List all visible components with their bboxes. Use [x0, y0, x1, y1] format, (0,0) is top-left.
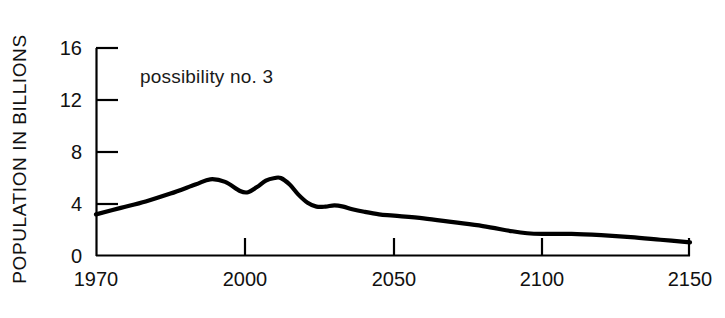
x-tick-label-2150: 2150	[668, 268, 713, 291]
y-tick-label-12: 12	[60, 89, 82, 112]
x-tick-label-2000: 2000	[223, 268, 268, 291]
y-tick-label-0: 0	[71, 245, 82, 268]
population-curve	[96, 177, 690, 242]
y-tick-label-16: 16	[60, 37, 82, 60]
x-tick-label-1970: 1970	[74, 268, 119, 291]
chart-figure: POPULATION IN BILLIONS 16 12 8 4 0 1970 …	[0, 0, 725, 318]
y-tick-label-8: 8	[71, 141, 82, 164]
chart-annotation: possibility no. 3	[140, 66, 273, 88]
y-tick-label-4: 4	[71, 193, 82, 216]
x-tick-label-2050: 2050	[372, 268, 417, 291]
x-tick-label-2100: 2100	[520, 268, 565, 291]
y-axis-title: POPULATION IN BILLIONS	[0, 0, 40, 318]
